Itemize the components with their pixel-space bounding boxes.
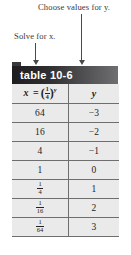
table-row: 1643 xyxy=(12,218,119,237)
table-body: 64−316−24−11014111621643 xyxy=(12,104,119,237)
table-row: 16−2 xyxy=(12,123,119,142)
cell-x: 164 xyxy=(12,218,69,237)
table-row: 1162 xyxy=(12,199,119,218)
cell-y: −2 xyxy=(69,123,120,142)
cell-x: 16 xyxy=(12,123,69,142)
down-arrow-icon-y-column xyxy=(81,14,82,61)
cell-y: 1 xyxy=(69,180,120,199)
cell-x: 116 xyxy=(12,199,69,218)
cell-x: 1 xyxy=(12,161,69,180)
table-row: 4−1 xyxy=(12,142,119,161)
table-row: 64−3 xyxy=(12,104,119,123)
column-header-y: y xyxy=(69,84,120,104)
cell-y: 0 xyxy=(69,161,120,180)
data-table: x = (14)y y 64−316−24−11014111621643 xyxy=(12,84,119,237)
cell-x: 4 xyxy=(12,142,69,161)
cell-x: 14 xyxy=(12,180,69,199)
cell-y: 2 xyxy=(69,199,120,218)
table-header-row: x = (14)y y xyxy=(12,84,119,104)
table-head: x = (14)y y xyxy=(12,84,119,104)
annotation-solve-for-x: Solve for x. xyxy=(14,31,56,41)
annotation-choose-values-for-y: Choose values for y. xyxy=(38,2,110,12)
table-caption: table 10-6 xyxy=(12,66,118,84)
cell-y: −1 xyxy=(69,142,120,161)
cell-y: −3 xyxy=(69,104,120,123)
table-row: 10 xyxy=(12,161,119,180)
table-row: 141 xyxy=(12,180,119,199)
column-header-x: x = (14)y xyxy=(12,84,69,104)
down-arrow-icon-x-column xyxy=(35,43,36,61)
cell-y: 3 xyxy=(69,218,120,237)
cell-x: 64 xyxy=(12,104,69,123)
table-block: table 10-6 x = (14)y y 64−316−24−1101411… xyxy=(12,62,118,237)
